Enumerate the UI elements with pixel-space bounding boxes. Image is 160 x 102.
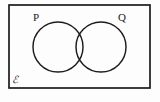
venn-diagram-canvas: P Q ℰ (0, 0, 160, 102)
set-label-q: Q (118, 11, 126, 23)
venn-diagram-figure: P Q ℰ (0, 0, 160, 102)
set-label-p: P (33, 11, 39, 23)
universal-set-symbol: ℰ (12, 74, 19, 85)
universal-set-rectangle (9, 5, 150, 88)
